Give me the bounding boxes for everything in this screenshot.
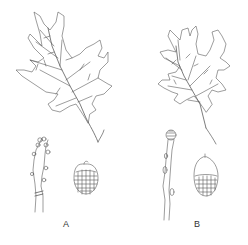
- acorn-a-icon: [74, 161, 98, 194]
- acorn-b-icon: [194, 154, 218, 196]
- twig-a-icon: [30, 137, 50, 212]
- oak-comparison-illustration: [0, 0, 248, 245]
- specimen-label-b: B: [194, 219, 200, 229]
- specimen-label-a: A: [63, 219, 69, 229]
- leaf-b-icon: [158, 26, 230, 144]
- twig-b-icon: [163, 130, 176, 220]
- leaf-a-icon: [16, 12, 112, 142]
